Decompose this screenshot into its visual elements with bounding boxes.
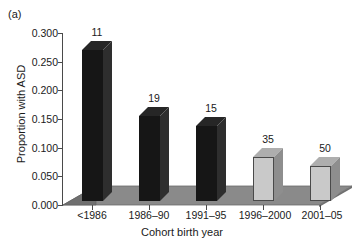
bar-1-side-face (103, 41, 112, 201)
bar-4-front-face (253, 157, 274, 201)
bar-5-value-label: 50 (295, 142, 355, 154)
bar-1-value-label: 11 (67, 26, 127, 38)
bar-4-value-label: 35 (238, 133, 298, 145)
bar-1-front-face (82, 50, 103, 201)
bar-2-front-face (139, 116, 160, 201)
bar-3-side-face (217, 117, 226, 201)
x-tick-label-2: 1991–95 (186, 209, 227, 221)
x-tick-label-0: <1986 (77, 209, 107, 221)
bar-1[interactable]: 11 (82, 41, 112, 201)
bar-3-front-face (196, 126, 217, 201)
x-tick-label-3: 1996–2000 (239, 209, 292, 221)
figure-panel: (a) 0.000 0.050 0.100 0.150 0.200 0.250 … (0, 0, 364, 246)
bar-3[interactable]: 15 (196, 117, 226, 201)
bar-5[interactable]: 50 (310, 157, 340, 201)
x-tick-label-4: 2001–05 (302, 209, 343, 221)
bar-2[interactable]: 19 (139, 107, 169, 201)
bar-2-value-label: 19 (124, 92, 184, 104)
x-tick-label-1: 1986–90 (129, 209, 170, 221)
bar-4[interactable]: 35 (253, 148, 283, 201)
bar-4-side-face (274, 148, 283, 201)
x-axis-title: Cohort birth year (0, 226, 364, 238)
bar-2-side-face (160, 107, 169, 201)
bar-3-value-label: 15 (181, 102, 241, 114)
bar-5-front-face (310, 166, 331, 201)
